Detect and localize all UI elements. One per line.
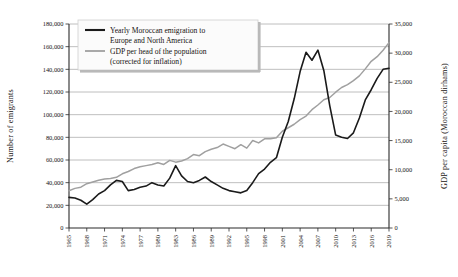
x-tick-label: 2016: [368, 235, 375, 248]
right-tick-label: 10,000: [395, 166, 413, 173]
left-tick-label: 20,000: [46, 202, 64, 209]
chart-container: 020,00040,00060,00080,000100,000120,0001…: [0, 0, 458, 277]
legend-label-gdp-line2: (corrected for inflation): [110, 57, 182, 66]
right-tick-label: 25,000: [395, 78, 413, 85]
right-tick-label: 15,000: [395, 137, 413, 144]
legend-shadow-right: [258, 22, 261, 72]
left-tick-label: 80,000: [46, 134, 64, 141]
chart-legend: Yearly Moroccan emigration to Europe and…: [78, 20, 261, 73]
x-tick-label: 1980: [154, 235, 161, 248]
x-tick-label: 1998: [261, 235, 268, 248]
left-axis-title: Number of emigrants: [6, 89, 15, 163]
right-tick-label: 5,000: [395, 195, 409, 202]
left-tick-label: 100,000: [43, 111, 64, 118]
x-tick-label: 1965: [65, 235, 72, 248]
left-tick-label: 0: [60, 224, 63, 231]
x-tick-label: 1977: [137, 234, 144, 248]
left-tick-label: 40,000: [46, 179, 64, 186]
x-tick-label: 1995: [243, 235, 250, 248]
legend-label-emigration-line1: Yearly Moroccan emigration to: [110, 26, 205, 35]
right-tick-label: 30,000: [395, 49, 413, 56]
x-tick-label: 1971: [101, 235, 108, 248]
x-tick-label: 1983: [172, 235, 179, 248]
legend-label-gdp-line1: GDP per head of the population: [110, 47, 207, 56]
legend-shadow: [80, 70, 260, 73]
x-tick-label: 1989: [208, 235, 215, 248]
left-tick-label: 180,000: [43, 20, 64, 27]
x-tick-label: 2001: [279, 235, 286, 248]
right-tick-label: 20,000: [395, 108, 413, 115]
left-tick-label: 160,000: [43, 43, 64, 50]
dual-axis-line-chart: 020,00040,00060,00080,000100,000120,0001…: [0, 0, 458, 277]
x-tick-label: 2010: [332, 235, 339, 248]
right-axis-title: GDP per capita (Moroccan dirhams): [440, 63, 449, 189]
left-tick-label: 60,000: [46, 156, 64, 163]
left-tick-label: 120,000: [43, 88, 64, 95]
legend-label-emigration-line2: Europe and North America: [110, 36, 193, 45]
x-tick-label: 1992: [225, 235, 232, 248]
right-tick-label: 35,000: [395, 20, 413, 27]
x-tick-label: 1986: [190, 235, 197, 248]
x-tick-label: 2013: [350, 235, 357, 248]
left-tick-label: 140,000: [43, 66, 64, 73]
x-tick-label: 1968: [83, 235, 90, 248]
x-tick-label: 2004: [297, 234, 304, 248]
right-tick-label: 0: [395, 224, 398, 231]
x-tick-label: 2019: [385, 235, 392, 248]
x-tick-label: 1974: [119, 234, 126, 248]
x-tick-label: 2007: [314, 234, 321, 248]
